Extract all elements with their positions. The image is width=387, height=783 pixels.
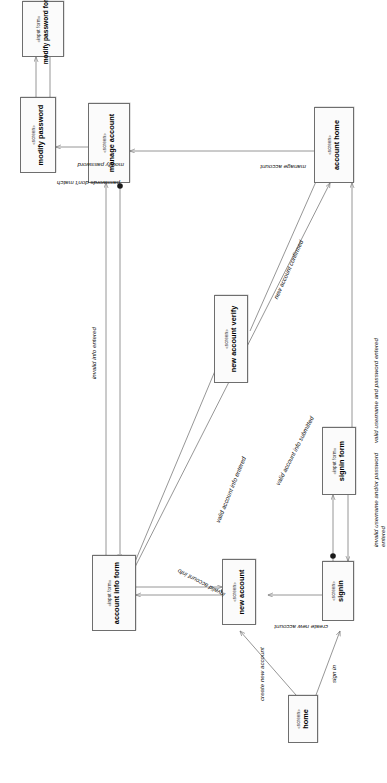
node-stereotype: «input form» xyxy=(36,16,41,43)
edge-label-create-new-account-signin: create new account xyxy=(274,624,328,631)
node-signin-form[interactable]: «input form» signin form xyxy=(322,427,356,495)
node-modify-password-form[interactable]: «input form» modify password form xyxy=(22,1,64,57)
node-signin[interactable]: «screen» signin xyxy=(322,561,354,621)
edge-label-invalid-username-password: invalid username and/or password entered xyxy=(372,437,387,547)
node-manage-account[interactable]: «screen» manage account xyxy=(88,103,130,183)
node-label: new account xyxy=(238,570,247,615)
edge-label-create-new-account-home: create new account xyxy=(258,647,265,701)
node-new-account[interactable]: «screen» new account xyxy=(222,559,256,625)
node-account-info-form[interactable]: «input form» account info form xyxy=(92,555,136,631)
node-new-account-verify[interactable]: «screen» new account verify xyxy=(214,295,248,383)
edge-label-modify-password: modify password xyxy=(78,162,124,169)
node-label: home xyxy=(302,709,311,729)
node-label: modify password xyxy=(37,105,46,166)
node-label: new account verify xyxy=(230,306,239,373)
node-modify-password[interactable]: «screen» modify password xyxy=(20,97,56,173)
node-account-home[interactable]: «screen» account home xyxy=(314,107,354,183)
node-label: signin form xyxy=(338,441,347,481)
edge-label-invalid-info-entered: invalid info entered xyxy=(90,327,97,379)
node-label: account home xyxy=(333,120,342,170)
edge-label-manage-account: manage account xyxy=(260,164,306,171)
edge-label-passwords-dont-match: passwords don't match xyxy=(57,180,120,187)
node-home[interactable]: «screen» home xyxy=(288,695,318,743)
node-label: account info form xyxy=(113,562,122,624)
node-label: modify password form xyxy=(42,0,50,64)
edge-label-valid-username-password: valid username and password entered xyxy=(372,313,379,443)
node-label: signin xyxy=(337,580,346,602)
edge-label-sign-in: sign in xyxy=(330,665,337,683)
